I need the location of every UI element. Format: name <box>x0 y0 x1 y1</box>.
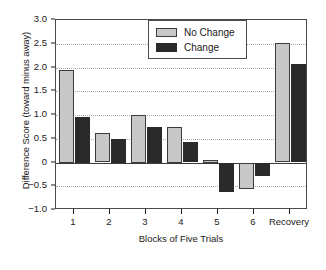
y-axis-tick-label: 2.5 <box>34 38 47 48</box>
bar-change <box>255 163 270 176</box>
bar-chart-figure: Difference Score (toward minus away) 3.0… <box>0 0 326 270</box>
legend-entry: No Change <box>156 25 246 40</box>
bar-no-change <box>167 127 182 163</box>
chart-legend: No ChangeChange <box>148 20 247 59</box>
bar-change <box>75 117 90 162</box>
y-axis-tick-label: 3.0 <box>34 14 47 24</box>
x-axis-tick-mark <box>145 209 146 214</box>
y-axis-tick-label: 2.0 <box>34 62 47 72</box>
legend-swatch-icon <box>156 28 177 37</box>
x-axis-tick-mark <box>181 209 182 214</box>
x-axis-tick-label: 5 <box>214 217 219 227</box>
bar-no-change <box>131 115 146 163</box>
y-axis-tick-label: −1.0 <box>28 204 47 214</box>
bar-change <box>219 163 234 192</box>
y-axis-tick-labels: 3.02.52.01.51.00.50−0.5−1.0 <box>20 19 51 209</box>
x-axis-tick-label: 1 <box>70 217 75 227</box>
bar-no-change <box>203 160 218 162</box>
bar-change <box>291 64 306 162</box>
bar-change <box>147 127 162 163</box>
bar-group <box>272 20 307 208</box>
y-axis-tick-label: 0 <box>42 157 47 167</box>
bar-change <box>111 139 126 163</box>
y-axis-tick-label: 1.0 <box>34 109 47 119</box>
bar-no-change <box>59 70 74 163</box>
y-axis-tick-label: 0.5 <box>34 133 47 143</box>
bar-group <box>92 20 128 208</box>
bar-no-change <box>275 43 290 163</box>
bar-change <box>183 142 198 163</box>
x-axis-tick-label: 2 <box>106 217 111 227</box>
x-axis-tick-label: Recovery <box>269 217 309 227</box>
bar-no-change <box>239 163 254 189</box>
y-axis-tick-label: 1.5 <box>34 86 47 96</box>
x-axis-tick-mark <box>289 209 290 214</box>
legend-label: No Change <box>184 28 235 38</box>
bar-group <box>56 20 92 208</box>
legend-entry: Change <box>156 40 246 55</box>
x-axis-tick-label: 3 <box>142 217 147 227</box>
x-axis-title: Blocks of Five Trials <box>55 233 307 244</box>
legend-label: Change <box>184 43 219 53</box>
legend-swatch-icon <box>156 43 177 52</box>
x-axis-tick-mark <box>73 209 74 214</box>
y-axis-tick-label: −0.5 <box>28 181 47 191</box>
x-axis-tick-mark <box>217 209 218 214</box>
x-axis-tick-label: 6 <box>250 217 255 227</box>
x-axis-tick-mark <box>109 209 110 214</box>
x-axis-tick-label: 4 <box>178 217 183 227</box>
bar-no-change <box>95 133 110 162</box>
x-axis-tick-labels: 123456Recovery <box>55 209 307 231</box>
x-axis-tick-mark <box>253 209 254 214</box>
